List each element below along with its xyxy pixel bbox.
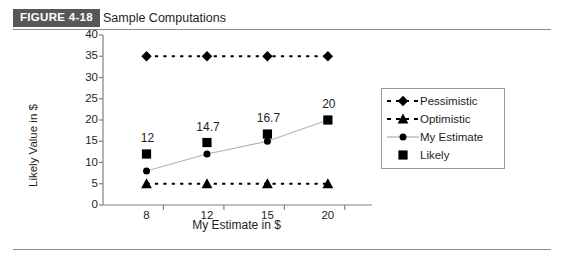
square-marker xyxy=(323,115,332,124)
triangle-marker xyxy=(262,178,273,188)
chart-series-layer xyxy=(141,51,333,188)
series-line xyxy=(147,120,328,171)
circle-marker xyxy=(264,138,271,145)
dashed-diamond-key xyxy=(386,94,420,108)
legend-item-label: My Estimate xyxy=(420,131,483,143)
circle-marker xyxy=(203,151,210,158)
figure-title: Sample Computations xyxy=(103,9,226,27)
dashed-triangle-key xyxy=(386,112,420,126)
square-marker xyxy=(142,149,151,158)
legend-item-label: Pessimistic xyxy=(420,95,478,107)
data-label: 14.7 xyxy=(196,120,220,134)
diamond-marker xyxy=(323,51,333,61)
data-label: 16.7 xyxy=(257,111,281,125)
figure-panel: FIGURE 4-18 Sample Computations Likely V… xyxy=(0,0,564,263)
circle-marker xyxy=(400,134,407,141)
chart-legend: PessimisticOptimisticMy EstimateLikely xyxy=(381,88,505,169)
legend-item-optimistic[interactable]: Optimistic xyxy=(382,110,504,128)
figure-caption-bar: FIGURE 4-18 Sample Computations xyxy=(0,9,564,29)
triangle-marker xyxy=(141,178,152,188)
series-likely xyxy=(142,115,333,158)
legend-item-label: Optimistic xyxy=(420,113,470,125)
chart-plot-area: Likely Value in $ 0510152025303540 81215… xyxy=(0,33,564,245)
x-axis-title: My Estimate in $ xyxy=(103,218,370,232)
diamond-marker xyxy=(262,51,272,61)
triangle-marker xyxy=(202,178,213,188)
series-my-estimate xyxy=(143,117,331,175)
legend-item-my-estimate[interactable]: My Estimate xyxy=(382,128,504,146)
series-pessimistic xyxy=(141,51,333,61)
data-label: 12 xyxy=(141,131,155,145)
square-marker xyxy=(263,129,272,138)
series-optimistic xyxy=(141,178,333,188)
data-label: 20 xyxy=(322,97,336,111)
square-key xyxy=(386,148,420,162)
diamond-marker xyxy=(141,51,151,61)
chart-data-labels: 1214.716.720 xyxy=(141,97,336,145)
legend-item-label: Likely xyxy=(420,149,449,161)
legend-item-pessimistic[interactable]: Pessimistic xyxy=(382,92,504,110)
solid-circle-key xyxy=(386,130,420,144)
circle-marker xyxy=(143,168,150,175)
diamond-marker xyxy=(202,51,212,61)
x-axis-ticks xyxy=(163,205,344,210)
legend-item-likely[interactable]: Likely xyxy=(382,146,504,164)
square-marker xyxy=(398,150,407,159)
figure-number-badge: FIGURE 4-18 xyxy=(13,9,100,27)
diamond-marker xyxy=(398,96,408,106)
caption-divider-bottom xyxy=(13,249,551,250)
square-marker xyxy=(202,138,211,147)
